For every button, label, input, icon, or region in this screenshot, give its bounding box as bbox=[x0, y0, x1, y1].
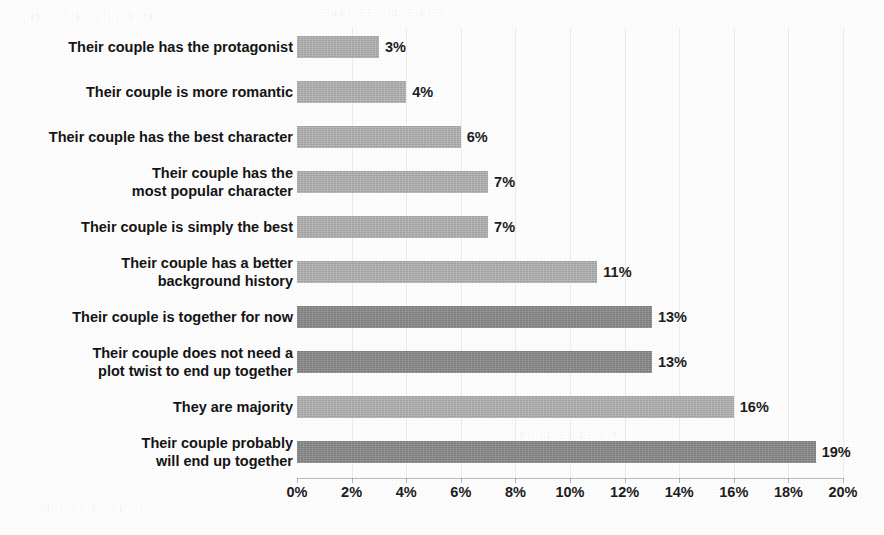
x-axis-tick bbox=[679, 478, 680, 483]
x-axis-tick bbox=[843, 478, 844, 483]
bar-light[interactable] bbox=[297, 81, 406, 103]
bar-row[interactable]: 3% bbox=[297, 36, 449, 58]
bar-value-label: 7% bbox=[494, 219, 515, 235]
bar-value-label: 6% bbox=[467, 129, 488, 145]
x-axis-tick bbox=[788, 478, 789, 483]
x-axis-tick-label: 16% bbox=[719, 484, 748, 500]
bar-value-label: 16% bbox=[740, 399, 769, 415]
x-axis-tick-label: 6% bbox=[450, 484, 471, 500]
bar-row[interactable]: 7% bbox=[297, 171, 558, 193]
bar-light[interactable] bbox=[297, 126, 461, 148]
bar-row[interactable]: 11% bbox=[297, 261, 667, 283]
bar-light[interactable] bbox=[297, 216, 488, 238]
x-axis-tick bbox=[352, 478, 353, 483]
x-axis-tick bbox=[297, 478, 298, 483]
category-label: Their couple has the protagonist bbox=[0, 38, 293, 56]
bar-value-label: 4% bbox=[412, 84, 433, 100]
x-axis-tick-label: 14% bbox=[665, 484, 694, 500]
x-axis-tick bbox=[625, 478, 626, 483]
category-label: Their couple has a better background his… bbox=[0, 254, 293, 290]
bar-row[interactable]: 19% bbox=[297, 441, 884, 463]
category-label: Their couple does not need a plot twist … bbox=[0, 344, 293, 380]
x-axis-tick-label: 12% bbox=[610, 484, 639, 500]
category-label: Their couple is simply the best bbox=[0, 218, 293, 236]
category-label: Their couple has the most popular charac… bbox=[0, 164, 293, 200]
gridline bbox=[843, 28, 844, 478]
bar-dark[interactable] bbox=[297, 351, 652, 373]
bar-value-label: 7% bbox=[494, 174, 515, 190]
x-axis-tick-label: 2% bbox=[341, 484, 362, 500]
bar-row[interactable]: 13% bbox=[297, 306, 722, 328]
x-axis-tick-label: 4% bbox=[396, 484, 417, 500]
x-axis-tick-label: 0% bbox=[287, 484, 308, 500]
category-label: Their couple is more romantic bbox=[0, 83, 293, 101]
x-axis-tick bbox=[461, 478, 462, 483]
x-axis-tick-label: 8% bbox=[505, 484, 526, 500]
bar-row[interactable]: 16% bbox=[297, 396, 804, 418]
x-axis-tick-label: 10% bbox=[555, 484, 584, 500]
category-label: Their couple is together for now bbox=[0, 308, 293, 326]
category-label: They are majority bbox=[0, 398, 293, 416]
x-axis-tick bbox=[406, 478, 407, 483]
bar-row[interactable]: 13% bbox=[297, 351, 722, 373]
bar-value-label: 3% bbox=[385, 39, 406, 55]
bar-light[interactable] bbox=[297, 36, 379, 58]
x-axis-tick bbox=[734, 478, 735, 483]
bar-light[interactable] bbox=[297, 261, 597, 283]
bar-row[interactable]: 4% bbox=[297, 81, 476, 103]
bar-value-label: 11% bbox=[603, 264, 631, 280]
x-axis-tick bbox=[515, 478, 516, 483]
x-axis-tick bbox=[570, 478, 571, 483]
bar-value-label: 19% bbox=[822, 444, 851, 460]
bar-row[interactable]: 6% bbox=[297, 126, 531, 148]
bar-value-label: 13% bbox=[658, 354, 687, 370]
category-label: Their couple probably will end up togeth… bbox=[0, 434, 293, 470]
bar-row[interactable]: 7% bbox=[297, 216, 558, 238]
x-axis-tick-label: 18% bbox=[774, 484, 803, 500]
bar-light[interactable] bbox=[297, 396, 734, 418]
bar-light[interactable] bbox=[297, 171, 488, 193]
bar-dark[interactable] bbox=[297, 441, 816, 463]
category-label: Their couple has the best character bbox=[0, 128, 293, 146]
bar-value-label: 13% bbox=[658, 309, 687, 325]
x-axis-tick-label: 20% bbox=[828, 484, 857, 500]
horizontal-bar-chart: 0%2%4%6%8%10%12%14%16%18%20% 3%4%6%7%7%1… bbox=[0, 0, 884, 535]
bar-dark[interactable] bbox=[297, 306, 652, 328]
